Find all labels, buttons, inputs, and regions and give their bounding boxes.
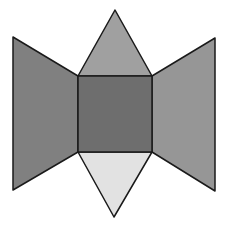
net-diagram <box>0 0 227 234</box>
top-triangle <box>78 10 152 76</box>
center-square <box>78 76 152 152</box>
caption-text <box>2 224 225 234</box>
right-trapezoid <box>152 38 215 191</box>
left-trapezoid <box>13 37 78 190</box>
bottom-triangle <box>78 152 152 217</box>
